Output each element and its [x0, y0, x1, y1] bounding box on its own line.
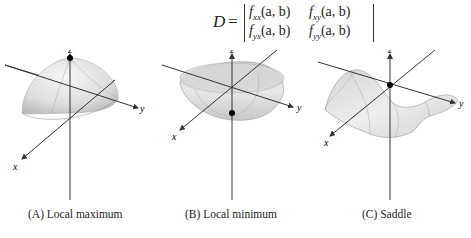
- figure-local-minimum: z y x: [150, 50, 310, 210]
- y-axis-label: y: [139, 103, 145, 114]
- y-axis-label: y: [458, 98, 464, 109]
- x-axis-label: x: [171, 131, 177, 142]
- formula-lhs: D: [213, 12, 225, 32]
- caption-local-minimum: (B) Local minimum: [185, 208, 277, 220]
- local-maximum-diagram: z y x: [0, 50, 160, 210]
- matrix-cell-fxx: fxx(a, b): [249, 4, 290, 22]
- x-axis-label: x: [12, 161, 18, 172]
- critical-point: [229, 110, 235, 116]
- z-axis-label: z: [67, 50, 72, 55]
- z-axis-label: z: [387, 50, 392, 55]
- critical-point: [67, 55, 73, 61]
- formula-equals: =: [228, 12, 238, 32]
- caption-saddle: (C) Saddle: [362, 208, 412, 220]
- figure-local-maximum: z y x: [0, 50, 160, 210]
- z-axis-label: z: [229, 50, 234, 55]
- x-axis-label: x: [323, 137, 329, 148]
- critical-point: [387, 82, 393, 88]
- matrix-right-bar: [373, 4, 374, 42]
- matrix-cell-fyx: fyx(a, b): [249, 23, 290, 41]
- caption-local-maximum: (A) Local maximum: [28, 208, 123, 220]
- matrix-left-bar: [244, 4, 245, 42]
- matrix-cell-fxy: fxy(a, b): [309, 4, 350, 22]
- determinant-formula: D = fxx(a, b) fxy(a, b) fyx(a, b) fyy(a,…: [0, 0, 471, 46]
- figure-saddle: z y x: [300, 50, 471, 210]
- saddle-diagram: z y x: [300, 50, 471, 210]
- matrix-cell-fyy: fyy(a, b): [309, 23, 350, 41]
- local-minimum-diagram: z y x: [150, 50, 310, 210]
